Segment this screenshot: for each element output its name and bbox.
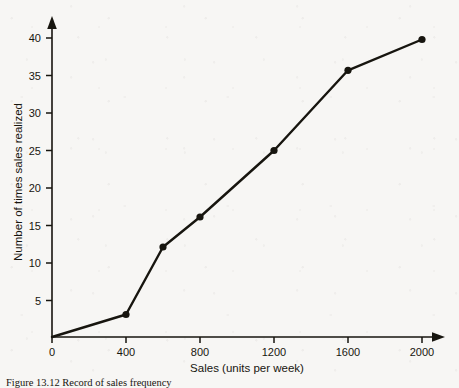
data-point xyxy=(418,36,425,43)
series-line xyxy=(52,40,422,338)
x-axis-arrowhead xyxy=(432,332,445,342)
figure-container: 5 10 15 20 25 30 35 40 0 400 800 1200 16… xyxy=(0,0,459,388)
x-axis-ticks: 0 400 800 1200 1600 2000 xyxy=(49,337,434,358)
data-point xyxy=(196,213,203,220)
y-tick-label: 15 xyxy=(29,220,41,232)
data-point xyxy=(270,147,277,154)
y-tick-label: 5 xyxy=(35,295,41,307)
line-chart: 5 10 15 20 25 30 35 40 0 400 800 1200 16… xyxy=(0,0,459,388)
data-point xyxy=(159,243,166,250)
data-series xyxy=(52,36,426,337)
x-axis-title: Sales (units per week) xyxy=(190,362,304,374)
axes xyxy=(47,16,445,342)
x-tick-label: 400 xyxy=(117,346,135,358)
y-tick-label: 40 xyxy=(29,32,41,44)
x-tick-label: 1600 xyxy=(336,346,360,358)
x-tick-label: 800 xyxy=(191,346,209,358)
x-tick-label: 0 xyxy=(49,346,55,358)
y-tick-label: 35 xyxy=(29,70,41,82)
y-axis-title: Number of times sales realized xyxy=(12,103,24,261)
y-axis-arrowhead xyxy=(47,16,57,29)
y-tick-label: 10 xyxy=(29,257,41,269)
figure-caption: Figure 13.12 Record of sales frequency xyxy=(6,377,172,388)
y-tick-label: 20 xyxy=(29,182,41,194)
y-tick-label: 30 xyxy=(29,107,41,119)
data-point xyxy=(344,67,351,74)
y-axis-ticks: 5 10 15 20 25 30 35 40 xyxy=(29,32,52,307)
data-point xyxy=(122,311,129,318)
x-tick-label: 2000 xyxy=(410,346,434,358)
x-tick-label: 1200 xyxy=(262,346,286,358)
y-tick-label: 25 xyxy=(29,145,41,157)
